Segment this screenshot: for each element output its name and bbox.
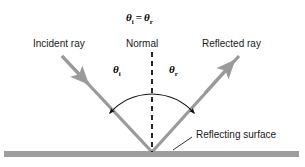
theta-incidence-subscript: i	[119, 70, 121, 78]
incident-ray-label: Incident ray	[33, 39, 85, 49]
reflecting-surface-label: Reflecting surface	[196, 130, 276, 140]
angle-of-incidence-label: θi	[113, 64, 121, 78]
normal-label: Normal	[126, 39, 158, 49]
reflected-ray-label: Reflected ray	[202, 39, 261, 49]
angle-of-reflection-label: θr	[169, 64, 178, 78]
reflected-ray-arrowhead	[205, 61, 234, 93]
equation-equals-sign: =	[134, 11, 144, 23]
reflecting-surface-leader-line	[173, 137, 192, 150]
reflection-diagram: θi=θr Incident ray Normal Reflected ray …	[0, 0, 305, 167]
angle-equality-equation: θi=θr	[126, 12, 153, 26]
theta-reflection-subscript: r	[175, 70, 178, 78]
angle-incidence-arc	[110, 94, 153, 114]
incident-ray-arrowhead	[62, 56, 88, 84]
equation-subscript-r: r	[150, 18, 153, 26]
